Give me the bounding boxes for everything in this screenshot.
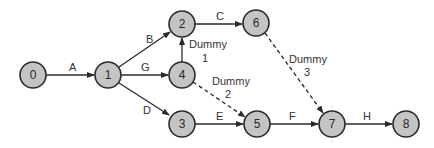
label-A: A — [69, 61, 77, 73]
svg-text:7: 7 — [329, 117, 336, 131]
label-dummy-2-word: Dummy — [212, 75, 250, 87]
label-B: B — [146, 33, 153, 45]
node-6: 6 — [243, 10, 269, 36]
label-C: C — [216, 10, 224, 22]
svg-text:2: 2 — [179, 17, 186, 31]
svg-text:8: 8 — [403, 117, 410, 131]
label-dummy-3-word: Dummy — [289, 53, 327, 65]
node-0: 0 — [20, 62, 46, 88]
node-1: 1 — [95, 62, 121, 88]
label-D: D — [143, 104, 151, 116]
label-G: G — [141, 61, 150, 73]
node-3: 3 — [169, 111, 195, 137]
label-dummy-2-num: 2 — [225, 88, 231, 100]
node-8: 8 — [393, 111, 419, 137]
svg-text:5: 5 — [254, 117, 261, 131]
node-2: 2 — [169, 11, 195, 37]
svg-text:1: 1 — [105, 68, 112, 82]
node-5: 5 — [244, 111, 270, 137]
svg-text:0: 0 — [30, 68, 37, 82]
node-7: 7 — [319, 111, 345, 137]
node-4: 4 — [169, 62, 195, 88]
svg-text:6: 6 — [253, 16, 260, 30]
network-diagram: A B G D C E F H Dummy 1 Dummy 2 Dummy 3 … — [0, 0, 434, 148]
label-F: F — [289, 110, 296, 122]
svg-text:3: 3 — [179, 117, 186, 131]
label-H: H — [363, 110, 371, 122]
svg-text:4: 4 — [179, 68, 186, 82]
edge-dummy-3 — [265, 33, 323, 113]
label-dummy-3-num: 3 — [304, 66, 310, 78]
label-dummy-1-word: Dummy — [189, 38, 227, 50]
label-E: E — [216, 110, 223, 122]
label-dummy-1-num: 1 — [202, 52, 208, 64]
